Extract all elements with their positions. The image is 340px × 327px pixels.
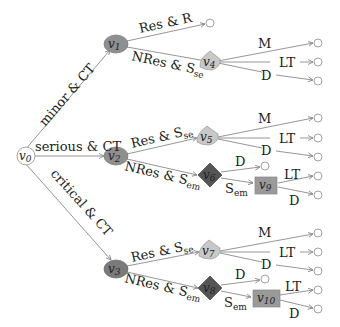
edge-v7-D-b bbox=[276, 265, 313, 270]
leaf-v6-D bbox=[261, 162, 269, 170]
node-v10: v10 bbox=[253, 290, 280, 307]
label-res-sse-3: Res & Sse bbox=[130, 237, 195, 267]
decision-tree: v0 v1 v2 v3 v4 v5 v7 v6 v8 v9 v10 mino bbox=[0, 0, 340, 327]
label-v5-LT: LT bbox=[279, 131, 296, 146]
label-v7-M: M bbox=[258, 225, 271, 240]
label-nres-sem-3: NRes & Sem bbox=[123, 270, 203, 304]
label-v5-D: D bbox=[261, 143, 271, 158]
leaf-v5-M bbox=[314, 114, 322, 122]
label-nres-sem-2: NRes & Sem bbox=[123, 158, 203, 192]
label-nres-sse-1: NRes & Sse bbox=[130, 48, 206, 80]
label-v10-D: D bbox=[289, 306, 299, 321]
label-v5-M: M bbox=[258, 111, 271, 126]
leaf-v7-LT bbox=[314, 248, 322, 256]
node-v3: v3 bbox=[104, 260, 128, 278]
leaf-v4-M bbox=[314, 39, 322, 47]
edge-v7-D-a bbox=[220, 253, 262, 262]
label-v8-D: D bbox=[235, 267, 245, 282]
leaf-v4-D bbox=[314, 77, 322, 85]
label-minor-ct: minor & CT bbox=[36, 61, 98, 129]
label-v4-M: M bbox=[258, 36, 271, 51]
node-v0: v0 bbox=[17, 147, 35, 165]
edge-v4-D-b bbox=[276, 75, 313, 80]
edge-v4-D-a bbox=[218, 63, 262, 72]
label-critical-ct: critical & CT bbox=[48, 166, 116, 239]
node-v6: v6 bbox=[198, 163, 222, 187]
leaf-v7-M bbox=[314, 229, 322, 237]
node-v9: v9 bbox=[255, 177, 277, 194]
label-v8-sem: Sem bbox=[224, 295, 247, 312]
label-v4-D: D bbox=[261, 68, 271, 83]
label-v7-D: D bbox=[261, 257, 271, 272]
leaf-v7-D bbox=[314, 267, 322, 275]
node-v8: v8 bbox=[198, 276, 222, 300]
label-v9-D: D bbox=[289, 193, 299, 208]
leaf-v1-res bbox=[206, 19, 214, 27]
leaf-v8-D bbox=[261, 275, 269, 283]
leaf-v4-LT bbox=[314, 58, 322, 66]
edge-v5-D-b bbox=[276, 151, 313, 156]
node-v7: v7 bbox=[199, 240, 220, 259]
leaf-v5-LT bbox=[314, 134, 322, 142]
edge-v5-D-a bbox=[218, 139, 262, 148]
label-v6-D: D bbox=[235, 154, 245, 169]
leaf-v5-D bbox=[314, 153, 322, 161]
label-v6-sem: Sem bbox=[225, 181, 248, 198]
label-serious-ct: serious & CT bbox=[35, 139, 121, 154]
leaf-v10-LT bbox=[314, 286, 322, 294]
node-v5: v5 bbox=[197, 126, 218, 145]
leaf-v9-LT bbox=[314, 172, 322, 180]
label-v4-LT: LT bbox=[279, 55, 296, 70]
label-res-sse-2: Res & Sse bbox=[129, 122, 194, 153]
label-v7-LT: LT bbox=[279, 245, 296, 260]
leaf-v10-D bbox=[314, 305, 322, 313]
leaf-v9-D bbox=[314, 191, 322, 199]
node-v4: v4 bbox=[200, 51, 220, 70]
node-v1: v1 bbox=[104, 35, 128, 53]
label-v10-LT: LT bbox=[285, 279, 302, 294]
label-v9-LT: LT bbox=[284, 167, 301, 182]
label-res-r: Res & R bbox=[138, 10, 195, 36]
